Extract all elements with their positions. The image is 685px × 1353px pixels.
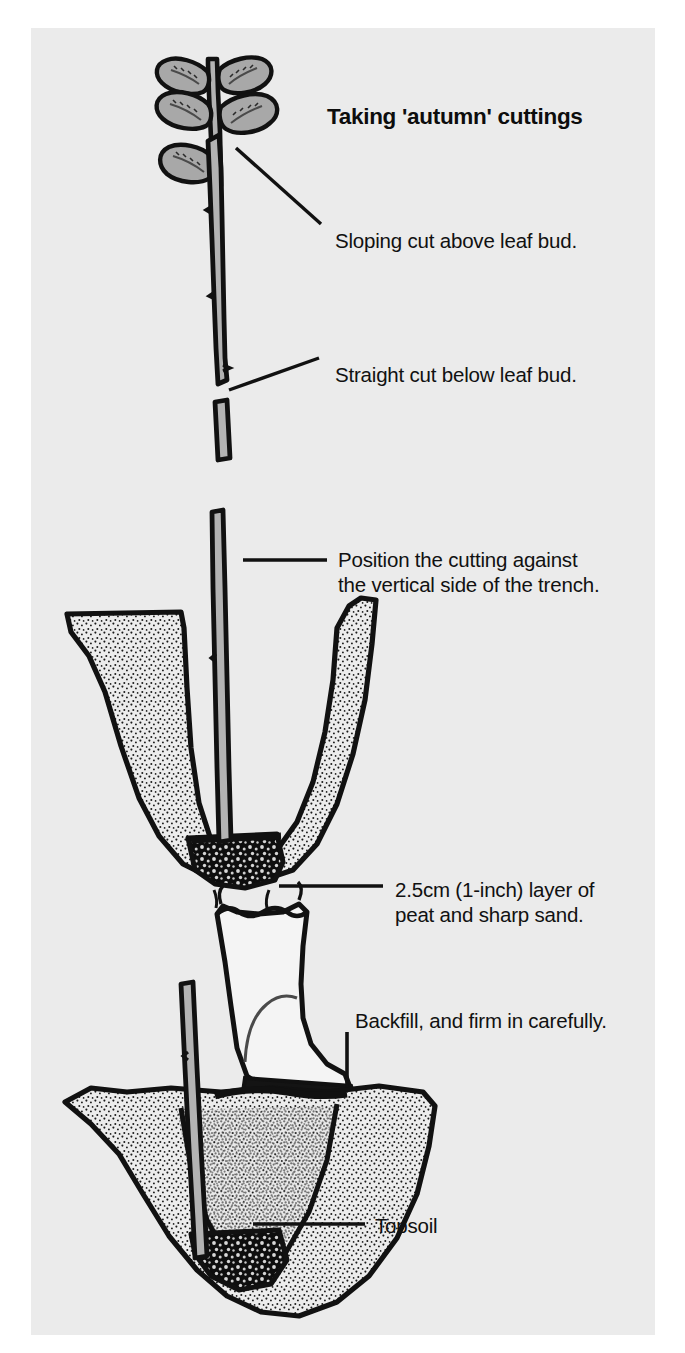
- page-title: Taking 'autumn' cuttings: [327, 104, 583, 130]
- illustration-panel: Taking 'autumn' cuttings Sloping cut abo…: [31, 28, 655, 1335]
- backfilled-trench: [65, 1086, 435, 1316]
- illustration-page: Taking 'autumn' cuttings Sloping cut abo…: [0, 0, 685, 1353]
- caption-topsoil: Topsoil: [375, 1213, 437, 1238]
- leader-line-sloping-cut: [236, 148, 321, 224]
- discarded-stem-offcut: [215, 400, 230, 460]
- prepared-cutting-stem: [206, 135, 230, 384]
- leader-line-straight-cut: [229, 358, 319, 390]
- caption-straight-cut: Straight cut below leaf bud.: [335, 362, 577, 387]
- caption-backfill: Backfill, and firm in carefully.: [355, 1008, 607, 1033]
- caption-peat-layer: 2.5cm (1-inch) layer of peat and sharp s…: [395, 877, 594, 927]
- caption-position-cutting: Position the cutting against the vertica…: [338, 547, 599, 597]
- autumn-cuttings-diagram: [31, 28, 655, 1335]
- cutting-in-open-trench: [211, 510, 231, 842]
- wellington-boot: [217, 882, 355, 1106]
- caption-sloping-cut: Sloping cut above leaf bud.: [335, 228, 577, 253]
